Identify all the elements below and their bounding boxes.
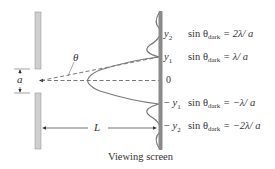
slit-width-arrowhead-down [18,89,21,93]
distance-arrowhead-right [153,126,157,129]
equation-y2: sin θdark = 2λ/ a [188,29,253,41]
position-label-neg-y1: − y1 [164,98,181,111]
lower-slit-barrier [35,93,41,149]
theta-label: θ [73,52,78,63]
equation-neg-y2: sin θdark = −2λ/ a [188,121,260,133]
position-sign: − [164,120,173,131]
distance-arrowhead-left [42,126,46,129]
position-label-neg-y2: − y2 [164,121,181,134]
diffraction-diagram [0,0,275,169]
viewing-screen-bar [159,11,163,150]
slit-width-label: a [17,74,23,85]
position-label-y1: y1 [164,52,172,65]
equation-neg-y1: sin θdark = −λ/ a [188,98,255,110]
upper-slit-barrier [35,12,41,69]
viewing-screen-caption: Viewing screen [108,152,173,163]
center-label: 0 [166,75,171,85]
position-sign: − [164,97,173,108]
distance-label: L [94,122,100,133]
angle-ray-dashed [41,57,159,81]
equation-y1: sin θdark = λ/ a [188,52,248,64]
position-label-y2: y2 [164,29,172,42]
